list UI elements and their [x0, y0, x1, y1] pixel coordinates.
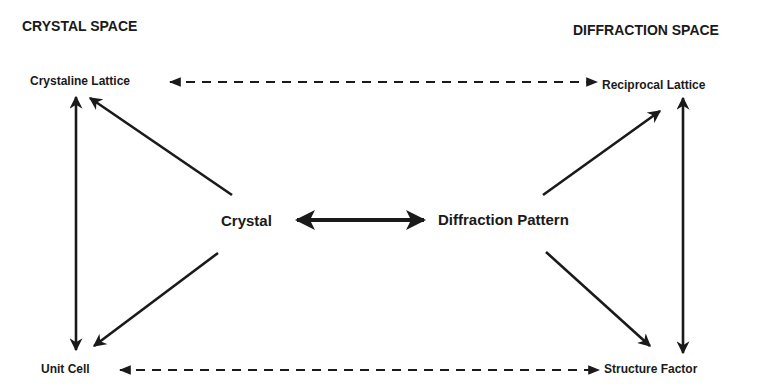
header-diffraction-space: DIFFRACTION SPACE — [573, 22, 719, 38]
node-unit-cell: Unit Cell — [41, 362, 90, 376]
header-crystal-space: CRYSTAL SPACE — [22, 18, 137, 34]
node-structure-factor: Structure Factor — [604, 362, 697, 376]
arrow-crystal-to-lattice — [90, 98, 232, 195]
arrow-pattern-to-reciprocal — [543, 111, 660, 195]
diagram-arrows — [0, 0, 784, 387]
node-diffraction-pattern: Diffraction Pattern — [438, 211, 569, 228]
node-crystal: Crystal — [221, 212, 272, 229]
node-reciprocal-lattice: Reciprocal Lattice — [602, 78, 705, 92]
arrow-pattern-to-structure — [546, 252, 650, 346]
node-crystaline-lattice: Crystaline Lattice — [30, 74, 130, 88]
arrow-crystal-to-unitcell — [94, 253, 218, 346]
